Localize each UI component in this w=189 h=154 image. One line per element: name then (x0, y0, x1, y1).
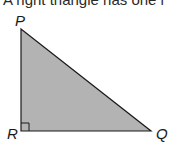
vertex-label-p: P (15, 12, 25, 29)
right-triangle-figure: P R Q (0, 0, 189, 154)
vertex-label-r: R (7, 125, 18, 142)
vertex-label-q: Q (156, 125, 168, 142)
triangle-pqr (21, 29, 151, 131)
